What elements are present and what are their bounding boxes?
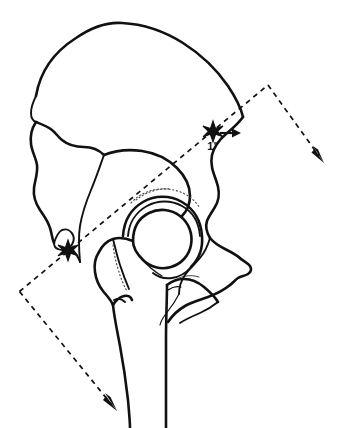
dimension-label: 1" bbox=[207, 140, 218, 152]
hip-pelvis-lateral-drawing: 1" bbox=[0, 0, 337, 428]
anatomical-figure: 1" bbox=[0, 0, 337, 428]
figure-background bbox=[0, 0, 337, 428]
femoral-shaft-medial-cortex bbox=[166, 285, 167, 428]
